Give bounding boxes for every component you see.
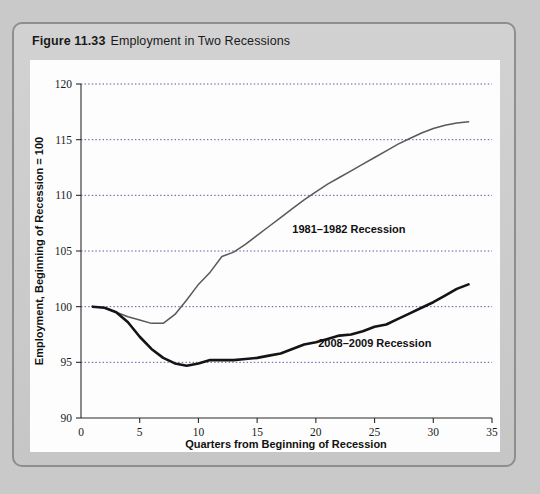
employment-line-chart: 9095100105110115120 05101520253035 1981–… xyxy=(30,60,500,452)
series-line-2 xyxy=(93,284,469,365)
y-tick-label: 120 xyxy=(55,78,73,90)
x-tick-label: 35 xyxy=(486,426,498,438)
x-tick-label: 25 xyxy=(369,426,381,438)
y-tick-label: 115 xyxy=(55,134,72,146)
x-tick-label: 5 xyxy=(137,426,143,438)
x-tick-label: 20 xyxy=(310,426,322,438)
y-axis-title: Employment, Beginning of Recession = 100 xyxy=(33,137,45,365)
data-series xyxy=(93,122,469,366)
x-tick-label: 30 xyxy=(428,426,440,438)
x-tick-label: 10 xyxy=(193,426,205,438)
chart-plot-panel: 9095100105110115120 05101520253035 1981–… xyxy=(30,60,500,452)
y-tick-label: 110 xyxy=(55,189,72,201)
x-tick-label: 0 xyxy=(78,426,84,438)
figure-title: Employment in Two Recessions xyxy=(110,34,290,48)
x-tick-label: 15 xyxy=(251,426,263,438)
figure-number: Figure 11.33 xyxy=(32,34,105,48)
figure-frame: Figure 11.33Employment in Two Recessions… xyxy=(12,22,516,467)
y-tick-labels: 9095100105110115120 xyxy=(55,78,81,424)
series-line-1 xyxy=(93,122,469,324)
series-label-2: 2008–2009 Recession xyxy=(318,337,431,349)
x-tick-labels: 05101520253035 xyxy=(78,418,498,438)
series-label-1: 1981–1982 Recession xyxy=(292,223,405,235)
series-labels: 1981–1982 Recession2008–2009 Recession xyxy=(292,223,431,349)
y-tick-label: 100 xyxy=(55,301,73,313)
figure-caption: Figure 11.33Employment in Two Recessions xyxy=(32,34,290,48)
x-axis-title: Quarters from Beginning of Recession xyxy=(185,438,387,450)
y-tick-label: 105 xyxy=(55,245,73,257)
y-tick-label: 95 xyxy=(61,356,73,368)
y-tick-label: 90 xyxy=(61,412,73,424)
